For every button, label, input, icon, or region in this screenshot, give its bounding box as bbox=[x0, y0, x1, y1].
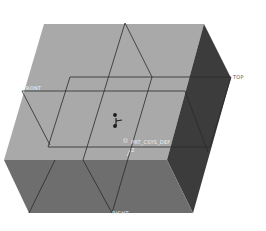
model-canvas[interactable] bbox=[0, 0, 266, 231]
front-face[interactable] bbox=[4, 160, 193, 213]
csys-axis-label: Z bbox=[131, 147, 135, 153]
csys-label[interactable]: PRT_CSYS_DEF bbox=[131, 139, 170, 145]
3d-model-viewport[interactable]: FRONT TOP RIGHT PRT_CSYS_DEF Z bbox=[0, 0, 266, 231]
datum-label-top[interactable]: TOP bbox=[233, 74, 244, 80]
datum-label-right[interactable]: RIGHT bbox=[112, 210, 129, 216]
datum-label-front[interactable]: FRONT bbox=[23, 85, 41, 91]
